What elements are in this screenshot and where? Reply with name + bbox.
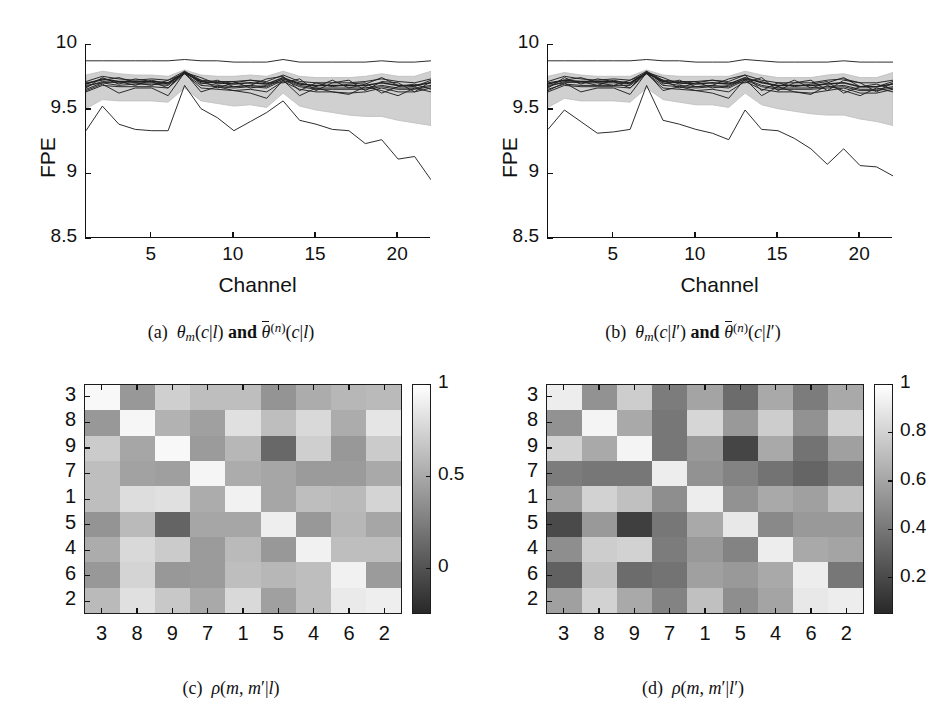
heatmap-ylabel-9: 9 xyxy=(38,434,76,457)
heatmap-cell xyxy=(687,436,722,461)
heatmap-xtick-top xyxy=(846,385,847,390)
heatmap-cell xyxy=(793,512,828,537)
heatmap-xtick-top xyxy=(634,385,635,390)
panel-d: 3897154623897154620.20.40.60.81 xyxy=(462,372,924,662)
heatmap-cell xyxy=(366,410,401,435)
heatmap-cell xyxy=(758,410,793,435)
caption-b-tag: (b) xyxy=(605,322,626,342)
heatmap-cell xyxy=(828,461,863,486)
heatmap-cell xyxy=(190,410,225,435)
heatmap-ylabel-2: 2 xyxy=(500,587,538,610)
caption-b: (b) θm(c|l′) and θ(n)(c|l′) xyxy=(462,320,924,345)
heatmap-cell xyxy=(331,512,366,537)
heatmap-cell xyxy=(547,537,582,562)
heatmap-xtick xyxy=(634,608,635,613)
heatmap-cell xyxy=(85,385,120,410)
heatmap-cell xyxy=(85,486,120,511)
ytick-mark xyxy=(85,238,91,239)
heatmap-ytick xyxy=(85,422,90,423)
heatmap-cell xyxy=(331,436,366,461)
heatmap-cell xyxy=(617,436,652,461)
xtick-mark xyxy=(858,232,859,238)
heatmap-xtick xyxy=(704,608,705,613)
xtick-label-15: 15 xyxy=(755,243,799,265)
heatmap-ytick xyxy=(547,396,552,397)
xtick-label-5: 5 xyxy=(129,243,173,265)
xtick-label-20: 20 xyxy=(375,243,419,265)
heatmap-cell xyxy=(190,562,225,587)
caption-d-tag: (d) xyxy=(642,678,663,698)
heatmap-cell xyxy=(793,461,828,486)
heatmap-xlabel-7: 7 xyxy=(650,622,690,645)
heatmap-cell xyxy=(582,461,617,486)
heatmap-ylabel-9: 9 xyxy=(500,434,538,457)
heatmap-ylabel-2: 2 xyxy=(38,587,76,610)
heatmap-xlabel-8: 8 xyxy=(117,622,157,645)
heatmap-ylabel-8: 8 xyxy=(500,408,538,431)
heatmap-cell xyxy=(687,486,722,511)
heatmap-cell xyxy=(261,436,296,461)
heatmap-cell xyxy=(723,486,758,511)
heatmap-cell xyxy=(793,410,828,435)
heatmap-xtick-top xyxy=(775,385,776,390)
heatmap-cell xyxy=(331,461,366,486)
heatmap-xtick xyxy=(598,608,599,613)
heatmap-xtick xyxy=(384,608,385,613)
heatmap-xlabel-1: 1 xyxy=(223,622,263,645)
heatmap-cell xyxy=(225,461,260,486)
colorbar-tick-1: 1 xyxy=(900,371,911,393)
heatmap-cell xyxy=(85,461,120,486)
heatmap-cell xyxy=(758,436,793,461)
ytick-mark xyxy=(85,173,91,174)
heatmap-xtick xyxy=(810,608,811,613)
xtick-label-10: 10 xyxy=(673,243,717,265)
colorbar-tick-mark xyxy=(426,476,431,477)
heatmap-xtick-top xyxy=(101,385,102,390)
heatmap-cell xyxy=(652,486,687,511)
ytick-label-8.5: 8.5 xyxy=(473,225,539,247)
heatmap-cell xyxy=(793,562,828,587)
ytick-label-9.5: 9.5 xyxy=(11,96,77,118)
heatmap-cell xyxy=(617,486,652,511)
heatmap-cell xyxy=(582,562,617,587)
panel-xlabel: Channel xyxy=(85,273,430,297)
heatmap-cell xyxy=(331,410,366,435)
heatmap-ytick xyxy=(547,499,552,500)
heatmap-cell xyxy=(261,486,296,511)
heatmap-ytick xyxy=(85,575,90,576)
panel-b-plot-area xyxy=(547,44,892,238)
panel-b-curves xyxy=(548,44,893,238)
heatmap-cell xyxy=(547,512,582,537)
heatmap-cell xyxy=(366,436,401,461)
heatmap-cell xyxy=(793,537,828,562)
heatmap-cell xyxy=(547,562,582,587)
heatmap-xtick-top xyxy=(810,385,811,390)
heatmap-cell xyxy=(331,486,366,511)
heatmap-cell xyxy=(547,410,582,435)
ytick-mark xyxy=(547,108,553,109)
heatmap-ylabel-1: 1 xyxy=(38,485,76,508)
heatmap-ytick xyxy=(85,601,90,602)
heatmap-cell xyxy=(828,486,863,511)
heatmap-cell xyxy=(190,486,225,511)
colorbar-tick-mark xyxy=(888,480,893,481)
heatmap-cell xyxy=(120,537,155,562)
caption-d-formula: ρ(m, m′|l′) xyxy=(667,678,744,698)
heatmap-cell xyxy=(120,562,155,587)
heatmap-xtick xyxy=(278,608,279,613)
heatmap-ytick xyxy=(85,524,90,525)
heatmap-cell xyxy=(296,512,331,537)
heatmap-xtick xyxy=(669,608,670,613)
caption-a: (a) θm(c|l) and θ(n)(c|l) xyxy=(0,320,462,345)
heatmap-xlabel-6: 6 xyxy=(791,622,831,645)
heatmap-cell xyxy=(758,486,793,511)
panel-c-heatmap xyxy=(84,384,402,614)
colorbar-tick-mark xyxy=(888,432,893,433)
xtick-mark xyxy=(150,232,151,238)
heatmap-xtick-top xyxy=(740,385,741,390)
heatmap-ylabel-4: 4 xyxy=(500,536,538,559)
heatmap-cell xyxy=(723,537,758,562)
heatmap-xtick-top xyxy=(563,385,564,390)
ytick-label-9.5: 9.5 xyxy=(473,96,539,118)
ytick-label-9: 9 xyxy=(11,160,77,182)
